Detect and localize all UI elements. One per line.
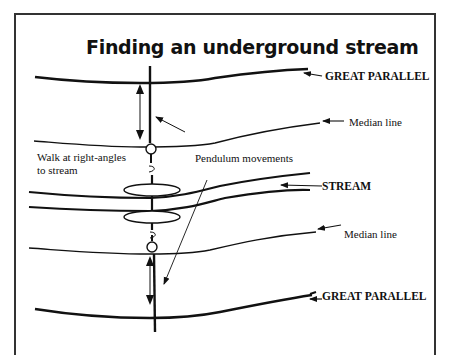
- pendulum-squiggle-top: [149, 166, 154, 172]
- pendulum-swing-lower: [124, 211, 180, 223]
- median-line-top: [34, 123, 320, 147]
- label-pendulum-movements: Pendulum movements: [195, 152, 293, 164]
- stream-arrow: [281, 185, 322, 186]
- great-parallel-top-arrow: [304, 73, 322, 76]
- label-stream: STREAM: [322, 180, 371, 193]
- label-median-line-bottom: Median line: [344, 228, 397, 240]
- median-bottom-arrow: [318, 225, 341, 229]
- great-parallel-top-line: [35, 69, 308, 83]
- walk-path-bottom: [154, 254, 155, 332]
- diagram-title: Finding an underground stream: [86, 36, 419, 58]
- distance-arrowhead-bottom-down: [146, 295, 154, 305]
- median-line-bottom: [29, 232, 316, 254]
- pendulum-pointer-upper: [156, 117, 185, 132]
- distance-arrowhead-top-down: [136, 130, 144, 140]
- pendulum-bob-top: [146, 144, 156, 154]
- distance-arrowhead-top-up: [136, 84, 144, 94]
- label-walk-line1: Walk at right-angles: [37, 151, 126, 163]
- pendulum-bob-bottom: [147, 242, 157, 252]
- great-parallel-bottom-line: [35, 295, 312, 318]
- label-great-parallel-top: GREAT PARALLEL: [325, 70, 429, 83]
- label-walk-line2: to stream: [37, 164, 78, 176]
- label-median-line-top: Median line: [349, 116, 402, 128]
- great-parallel-bottom-hook: [310, 292, 316, 294]
- pendulum-swing-upper: [124, 184, 180, 196]
- label-great-parallel-bottom: GREAT PARALLEL: [322, 290, 426, 303]
- distance-arrowhead-bottom-up: [146, 256, 154, 266]
